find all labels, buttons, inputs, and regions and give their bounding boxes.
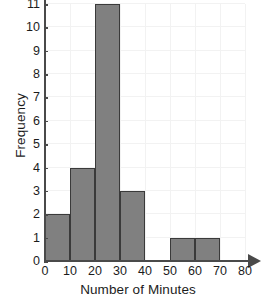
y-axis-line bbox=[44, 0, 46, 262]
y-axis-tick-label: 7 bbox=[16, 91, 40, 103]
y-axis-tick-mark bbox=[44, 27, 48, 29]
y-axis-tick-label: 8 bbox=[16, 68, 40, 80]
y-axis-tick-mark bbox=[44, 214, 48, 216]
histogram-bar bbox=[45, 214, 70, 261]
bars-group bbox=[45, 4, 245, 261]
y-axis-tick-mark bbox=[44, 121, 48, 123]
x-axis-line bbox=[44, 260, 254, 262]
y-axis-tick-mark bbox=[44, 238, 48, 240]
y-axis-tick-label: 5 bbox=[16, 138, 40, 150]
y-axis-tick-mark bbox=[44, 97, 48, 99]
y-axis-tick-mark bbox=[44, 144, 48, 146]
y-axis-tick-label: 9 bbox=[16, 45, 40, 57]
histogram-bar bbox=[95, 4, 120, 261]
y-axis-tick-mark bbox=[44, 168, 48, 170]
histogram-chart: Frequency 01234567891011 010203040506070… bbox=[0, 0, 276, 300]
x-axis-tick-label: 80 bbox=[230, 264, 260, 278]
y-axis-tick-mark bbox=[44, 51, 48, 53]
y-axis-tick-label: 11 bbox=[16, 0, 40, 10]
y-axis-tick-label: 4 bbox=[16, 162, 40, 174]
y-axis-tick-label: 2 bbox=[16, 208, 40, 220]
gridline-vertical bbox=[245, 4, 246, 261]
y-axis-tick-label: 10 bbox=[16, 21, 40, 33]
y-axis-tick-label: 1 bbox=[16, 232, 40, 244]
x-axis-title: Number of Minutes bbox=[0, 282, 276, 297]
histogram-bar bbox=[195, 238, 220, 261]
y-axis-tick-mark bbox=[44, 74, 48, 76]
y-axis-tick-labels: 01234567891011 bbox=[14, 0, 40, 265]
histogram-bar bbox=[70, 168, 95, 261]
y-axis-tick-mark bbox=[44, 191, 48, 193]
histogram-bar bbox=[170, 238, 195, 261]
y-axis-tick-mark bbox=[44, 261, 48, 263]
plot-area bbox=[45, 4, 245, 261]
histogram-bar bbox=[120, 191, 145, 261]
y-axis-tick-label: 3 bbox=[16, 185, 40, 197]
y-axis-tick-label: 6 bbox=[16, 115, 40, 127]
x-axis-tick-labels: 01020304050607080 bbox=[0, 264, 276, 284]
y-axis-tick-mark bbox=[44, 4, 48, 6]
